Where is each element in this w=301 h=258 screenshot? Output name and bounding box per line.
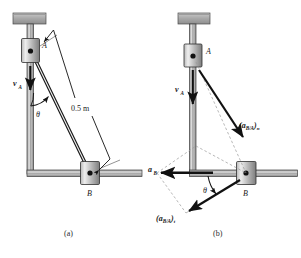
panel-a-caption: (a) — [64, 229, 73, 238]
arn-comp: n — [257, 126, 260, 131]
panel-b-accel-b-subscript: B — [153, 170, 158, 176]
panel-b-label-velocity-a: v A — [175, 85, 185, 96]
panel-b-label-accel-rel-tangential: (aB/A)t — [156, 214, 176, 224]
panel-b-accel-rel-normal-text: (aB/A)n — [239, 121, 260, 131]
panel-b-label-collar-a: A — [205, 47, 211, 56]
panel-b-accel-rel-tangential-vector — [189, 180, 240, 211]
panel-b-accel-rel-normal-vector — [199, 70, 243, 137]
panel-b-caption: (b) — [213, 229, 223, 238]
panel-b-angle-arc — [208, 176, 216, 194]
panel-a-velocity-subscript: A — [18, 84, 23, 90]
panel-b-collar-a — [184, 44, 202, 67]
panel-b-label-theta: θ — [203, 186, 207, 195]
panel-a-label-velocity-a: v A — [13, 79, 23, 90]
panel-b-support-block — [178, 13, 210, 24]
art-comp: t — [174, 219, 176, 224]
panel-b-velocity-subscript: A — [180, 90, 185, 96]
panel-a: A B v A θ — [13, 13, 142, 238]
panel-a-collar-a — [22, 39, 40, 63]
panel-a-label-theta: θ — [36, 110, 40, 119]
panel-a-velocity-symbol: v — [13, 79, 17, 88]
panel-a-support-block — [13, 13, 46, 24]
panel-b-velocity-symbol: v — [175, 85, 179, 94]
panel-a-collar-b — [81, 162, 100, 185]
figure-canvas: A B v A θ — [0, 0, 301, 258]
panel-a-label-collar-b: B — [87, 189, 92, 198]
panel-b-label-accel-b: a B — [148, 165, 158, 176]
panel-b-accel-b-symbol: a — [148, 165, 152, 174]
panel-b-construction-lines — [157, 62, 246, 213]
panel-a-label-length: 0.5 m — [71, 104, 90, 113]
panel-b-label-accel-rel-normal: (aB/A)n — [239, 121, 260, 131]
mechanics-figure: A B v A θ — [0, 0, 301, 258]
panel-b-accel-rel-tangential-text: (aB/A)t — [156, 214, 176, 224]
panel-b: A B v A a — [148, 13, 298, 238]
panel-b-label-collar-b: B — [243, 189, 248, 198]
